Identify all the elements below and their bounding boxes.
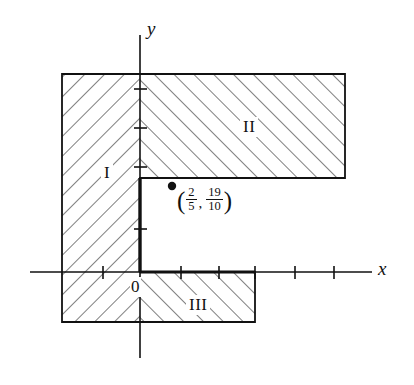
x-numerator: 2: [186, 186, 196, 199]
origin-label: 0: [130, 277, 141, 297]
y-denominator: 10: [206, 199, 223, 213]
open-paren: (: [177, 187, 185, 214]
y-coordinate-fraction: 1910: [206, 186, 223, 213]
x-axis-label: x: [378, 258, 386, 280]
marked-point-dot: [168, 182, 176, 190]
region-I-fill: [62, 74, 140, 322]
region-label-ii: II: [240, 117, 258, 137]
x-denominator: 5: [186, 199, 196, 213]
region-label-iii: III: [186, 295, 210, 315]
y-numerator: 19: [206, 186, 223, 199]
coordinate-comma: ,: [199, 195, 203, 211]
figure-canvas: y x I II III 0 (25,1910): [0, 0, 414, 385]
marked-point-coordinates: (25,1910): [177, 186, 232, 213]
x-coordinate-fraction: 25: [186, 186, 196, 213]
region-label-i: I: [101, 163, 113, 183]
y-axis-label: y: [147, 18, 155, 40]
close-paren: ): [224, 187, 232, 214]
